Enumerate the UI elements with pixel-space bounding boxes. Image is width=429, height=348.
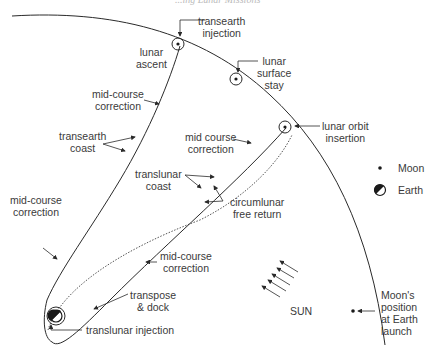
sun-direction-arrows bbox=[262, 261, 298, 297]
legend-moon-icon bbox=[378, 166, 382, 170]
legend-moon-label: Moon bbox=[398, 162, 424, 174]
label-translunar-coast: translunar coast bbox=[135, 168, 182, 192]
label-mid-course-correction-top: mid-course correction bbox=[92, 88, 144, 112]
label-translunar-injection: translunar injection bbox=[86, 324, 174, 336]
label-moon-position-at-launch: Moon's position at Earth launch bbox=[381, 289, 418, 337]
label-transearth-injection: transearth injection bbox=[198, 15, 245, 39]
trajectory-diagram bbox=[0, 0, 429, 348]
label-mid-course-correction-bottom: mid-course correction bbox=[160, 250, 212, 274]
label-lunar-ascent: lunar ascent bbox=[136, 46, 167, 70]
legend-earth-label: Earth bbox=[398, 184, 423, 196]
label-transpose-dock: transpose & dock bbox=[130, 289, 176, 313]
label-sun: SUN bbox=[290, 305, 312, 317]
label-lunar-orbit-insertion: lunar orbit insertion bbox=[322, 120, 369, 144]
label-transearth-coast: transearth coast bbox=[59, 130, 106, 154]
label-lunar-surface-stay: lunar surface stay bbox=[257, 55, 291, 91]
moon-orbit-arc bbox=[12, 15, 385, 345]
label-mid-course-correction-right: mid course correction bbox=[185, 131, 236, 155]
label-mid-course-correction-left: mid-course correction bbox=[10, 194, 62, 218]
label-circumlunar-free-return: circumlunar free return bbox=[230, 196, 284, 220]
moon-launch-position-dot bbox=[351, 309, 355, 313]
